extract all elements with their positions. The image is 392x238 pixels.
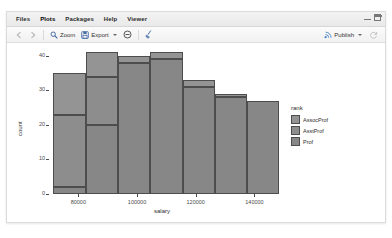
bar-segment [118, 56, 150, 63]
y-tick-label: 0 [23, 190, 45, 196]
tab-plots[interactable]: Plots [35, 12, 60, 26]
bar-segment [53, 187, 85, 194]
ggplot-figure: 01020304080000100000120000140000salaryco… [7, 43, 386, 223]
clear-all-plots-button[interactable] [142, 29, 156, 41]
window-controls [364, 14, 381, 21]
remove-circle-icon [123, 30, 132, 39]
y-tick-label: 20 [23, 121, 45, 127]
bar-segment [86, 125, 118, 194]
bar-segment [118, 63, 150, 194]
export-button[interactable]: Export [78, 29, 119, 41]
legend-label: AsstProf [303, 128, 324, 134]
bar-segment [215, 94, 247, 97]
plots-toolbar: Zoom Export Publish [7, 27, 385, 43]
publish-button[interactable]: Publish [321, 29, 365, 41]
x-axis-title: salary [49, 208, 275, 214]
x-tick-label: 80000 [60, 199, 96, 205]
x-tick-label: 140000 [236, 199, 272, 205]
magnifier-icon [50, 31, 58, 39]
y-axis-title: count [17, 121, 23, 136]
y-tickmark [46, 90, 49, 91]
tab-packages[interactable]: Packages [60, 12, 99, 26]
bar-segment [86, 77, 118, 125]
bar-segment [215, 97, 247, 194]
legend-label: Prof [303, 139, 313, 145]
pane-tabstrip: Files Plots Packages Help Viewer [7, 12, 385, 27]
export-label: Export [91, 29, 108, 41]
legend-key [291, 137, 300, 146]
zoom-label: Zoom [60, 29, 75, 41]
y-tickmark [46, 194, 49, 195]
bar-segment [247, 101, 279, 194]
x-tickmark [196, 194, 197, 197]
x-tickmark [254, 194, 255, 197]
toolbar-separator-2 [138, 30, 139, 40]
tab-viewer[interactable]: Viewer [122, 12, 152, 26]
bar-segment [53, 73, 85, 114]
bar-segment [183, 87, 215, 194]
bar-segment [53, 115, 85, 188]
chevron-down-icon[interactable] [358, 34, 362, 36]
y-tickmark [46, 159, 49, 160]
export-disk-icon [81, 31, 89, 39]
x-tick-label: 100000 [119, 199, 155, 205]
bar-segment [150, 52, 182, 59]
forward-arrow-icon[interactable] [26, 29, 40, 41]
toolbar-right-group: Publish [321, 27, 381, 42]
legend-key [291, 126, 300, 135]
y-tick-label: 30 [23, 86, 45, 92]
publish-icon [324, 31, 332, 39]
broom-icon [145, 30, 153, 39]
legend-label: AssocProf [303, 117, 328, 123]
y-tick-label: 10 [23, 155, 45, 161]
x-tickmark [137, 194, 138, 197]
tab-help[interactable]: Help [99, 12, 122, 26]
x-tick-label: 120000 [178, 199, 214, 205]
bar-segment [183, 80, 215, 87]
zoom-button[interactable]: Zoom [47, 29, 78, 41]
legend-title: rank [291, 105, 303, 111]
x-tickmark [78, 194, 79, 197]
plots-pane-window: Files Plots Packages Help Viewer Zoom [6, 11, 386, 223]
toolbar-separator-1 [43, 30, 44, 40]
bar-segment [86, 52, 118, 76]
chevron-down-icon[interactable] [113, 34, 117, 36]
publish-label: Publish [334, 29, 354, 41]
bar-segment [150, 59, 182, 194]
remove-plot-button[interactable] [120, 29, 135, 41]
plot-canvas: 01020304080000100000120000140000salaryco… [7, 43, 385, 223]
refresh-icon[interactable] [367, 29, 381, 41]
back-arrow-icon[interactable] [12, 29, 26, 41]
y-tickmark [46, 56, 49, 57]
tab-files[interactable]: Files [7, 12, 35, 26]
legend-key [291, 115, 300, 124]
maximize-icon[interactable] [374, 14, 381, 21]
y-tick-label: 40 [23, 52, 45, 58]
minimize-icon[interactable] [364, 14, 371, 21]
y-tickmark [46, 125, 49, 126]
